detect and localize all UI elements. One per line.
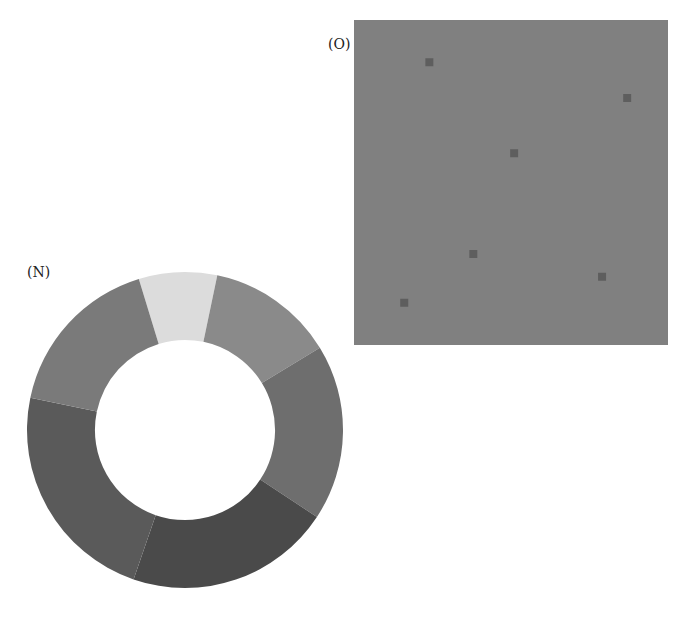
scatter-point: [425, 58, 433, 66]
scatter-point: [469, 250, 477, 258]
scatter-point: [598, 273, 606, 281]
donut-segment-s6: [30, 279, 158, 412]
scatter-point: [623, 94, 631, 102]
scatter-point: [400, 299, 408, 307]
scatter-panel: [354, 20, 668, 345]
donut-chart: [0, 250, 360, 610]
donut-segment-s5: [27, 398, 156, 580]
scatter-point: [510, 149, 518, 157]
panel-label-o: (O): [328, 36, 350, 52]
scatter-background: [354, 20, 668, 345]
